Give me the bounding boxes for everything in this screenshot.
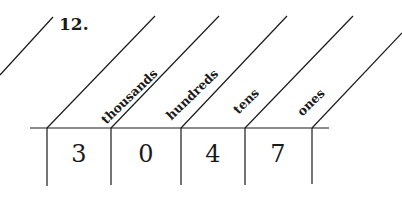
digit-thousands: 3 [54, 140, 104, 168]
digit-ones: 7 [253, 140, 303, 168]
place-value-exercise: 12. thousands hundreds tens ones 3 0 4 7 [0, 0, 402, 200]
digit-tens: 4 [188, 140, 238, 168]
digit-hundreds: 0 [121, 140, 171, 168]
problem-number: 12. [59, 14, 89, 34]
